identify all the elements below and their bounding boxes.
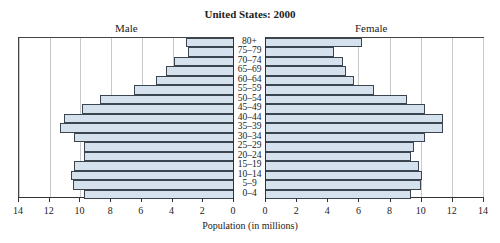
- female-bar: [265, 66, 346, 75]
- female-bar: [265, 47, 334, 56]
- female-bar: [265, 171, 422, 180]
- male-plot-area: [18, 37, 234, 198]
- male-bar: [84, 190, 235, 199]
- tick-label: 4: [162, 205, 182, 216]
- tick-mark: [18, 198, 19, 202]
- male-bar: [82, 104, 234, 113]
- tick-label: 2: [286, 205, 306, 216]
- male-bar: [73, 180, 234, 189]
- male-bar: [84, 142, 235, 151]
- male-bar: [84, 152, 235, 161]
- tick-label: 6: [348, 205, 368, 216]
- tick-mark: [358, 198, 359, 202]
- tick-mark: [110, 198, 111, 202]
- tick-label: 0: [255, 205, 275, 216]
- gridline: [19, 38, 20, 197]
- male-label: Male: [115, 22, 138, 34]
- tick-label: 12: [442, 205, 462, 216]
- male-bar: [71, 171, 234, 180]
- female-bar: [265, 38, 362, 47]
- male-bar: [174, 57, 234, 66]
- male-bar: [134, 85, 234, 94]
- male-bar: [100, 95, 234, 104]
- tick-label: 14: [8, 205, 28, 216]
- tick-label: 12: [39, 205, 59, 216]
- tick-mark: [327, 198, 328, 202]
- female-bar: [265, 133, 425, 142]
- female-label: Female: [355, 22, 387, 34]
- age-label: 0–4: [234, 189, 265, 198]
- chart-title: United States: 2000: [0, 8, 500, 20]
- male-bar: [74, 161, 234, 170]
- tick-label: 2: [192, 205, 212, 216]
- male-bar: [188, 47, 234, 56]
- male-bar: [74, 133, 234, 142]
- female-bar: [265, 85, 374, 94]
- tick-mark: [265, 198, 266, 202]
- tick-label: 0: [223, 205, 243, 216]
- male-bar: [156, 76, 234, 85]
- tick-mark: [390, 198, 391, 202]
- tick-mark: [452, 198, 453, 202]
- gridline: [50, 38, 51, 197]
- tick-label: 4: [317, 205, 337, 216]
- tick-mark: [79, 198, 80, 202]
- female-bar: [265, 57, 343, 66]
- female-bar: [265, 95, 407, 104]
- gridline: [483, 38, 484, 197]
- female-bar: [265, 104, 425, 113]
- tick-mark: [172, 198, 173, 202]
- female-bar: [265, 142, 414, 151]
- female-bar: [265, 180, 421, 189]
- tick-mark: [296, 198, 297, 202]
- tick-label: 8: [100, 205, 120, 216]
- female-bar: [265, 152, 411, 161]
- female-bar: [265, 123, 443, 132]
- tick-mark: [49, 198, 50, 202]
- female-plot-area: [265, 37, 484, 198]
- tick-label: 10: [411, 205, 431, 216]
- male-bar: [186, 38, 234, 47]
- tick-label: 6: [131, 205, 151, 216]
- tick-label: 10: [69, 205, 89, 216]
- tick-mark: [483, 198, 484, 202]
- female-bar: [265, 114, 443, 123]
- female-zero-axis: [265, 37, 266, 198]
- female-bar: [265, 161, 419, 170]
- x-axis-label: Population (in millions): [0, 220, 500, 231]
- male-bar: [64, 114, 234, 123]
- tick-mark: [202, 198, 203, 202]
- tick-label: 8: [380, 205, 400, 216]
- gridline: [452, 38, 453, 197]
- male-bar: [60, 123, 234, 132]
- tick-label: 14: [473, 205, 493, 216]
- female-bar: [265, 76, 354, 85]
- male-bar: [166, 66, 234, 75]
- tick-mark: [421, 198, 422, 202]
- tick-mark: [233, 198, 234, 202]
- tick-mark: [141, 198, 142, 202]
